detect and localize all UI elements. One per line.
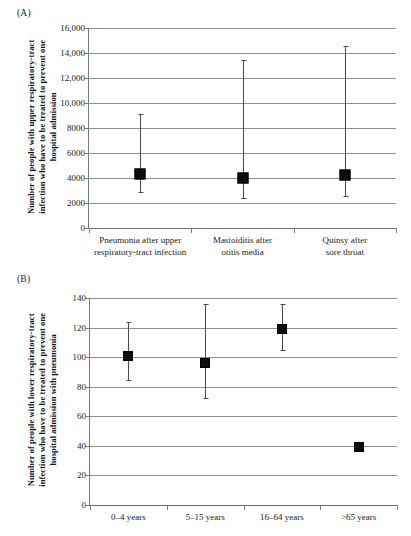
y-tick-mark [85,103,89,104]
y-tick-label: 100 [73,352,87,362]
y-tick-mark [85,203,89,204]
panel-a-y-axis-title-line-3: hospital admission [49,40,60,214]
x-category-label: 0–4 years [111,512,146,524]
y-tick-label: 40 [77,441,86,451]
y-tick-label: 0 [81,223,86,233]
y-tick-mark [85,128,89,129]
y-tick-label: 10,000 [60,98,85,108]
gridline [90,387,397,388]
x-category-label: 5–15 years [186,512,225,524]
error-bar-cap-lower [280,350,285,351]
error-bar-cap-upper [127,322,132,323]
y-tick-mark [85,153,89,154]
y-tick-mark [86,328,90,329]
y-tick-label: 80 [77,382,86,392]
x-tick-mark [320,505,321,510]
data-point-marker [200,358,210,368]
y-tick-label: 120 [73,323,87,333]
data-point-marker [237,173,248,184]
y-tick-label: 12,000 [60,73,85,83]
x-category-label-line: Quinsy after [322,235,367,247]
x-category-label: Quinsy aftersore throat [322,235,367,258]
x-category-label-line: >65 years [341,512,376,524]
y-tick-label: 6000 [67,148,85,158]
y-tick-mark [86,446,90,447]
gridline [90,475,397,476]
x-tick-mark [294,228,295,233]
y-tick-mark [85,28,89,29]
y-tick-label: 2000 [67,198,85,208]
x-category-label-line: 16–64 years [260,512,304,524]
error-bar-cap-upper [241,60,246,61]
x-category-label-line: respiratory-tract infection [94,247,186,259]
error-bar-cap-lower [241,198,246,199]
gridline [89,53,396,54]
x-tick-mark [244,505,245,510]
panel-b-y-axis-title: Number of people with lower respiratory-… [22,300,64,500]
x-tick-mark [396,228,397,233]
x-category-label-line: otitis media [213,247,272,259]
y-tick-mark [85,78,89,79]
panel-a-y-axis-title-line-1: Number of people with upper respiratory-… [26,40,37,214]
y-tick-label: 140 [73,293,87,303]
data-point-marker [135,168,146,179]
error-bar [140,114,141,193]
panel-b: (B) Number of people with lower respirat… [0,268,411,536]
y-tick-label: 60 [77,411,86,421]
y-tick-label: 4000 [67,173,85,183]
x-category-label: Mastoiditis afterotitis media [213,235,272,258]
x-category-label-line: 0–4 years [111,512,146,524]
panel-b-plot-area: 0204060801001201400–4 years5–15 years16–… [89,298,397,505]
gridline [90,357,397,358]
error-bar-cap-lower [139,192,144,193]
data-point-marker [339,169,350,180]
error-bar-cap-upper [280,304,285,305]
y-tick-mark [86,475,90,476]
x-tick-mark [89,228,90,233]
x-category-label: Pneumonia after upperrespiratory-tract i… [94,235,186,258]
x-tick-mark [90,505,91,510]
panel-a-y-axis-title: Number of people with upper respiratory-… [22,18,64,236]
error-bar-cap-upper [204,304,209,305]
error-bar-cap-lower [127,380,132,381]
data-point-marker [277,324,287,334]
y-tick-label: 0 [82,500,87,510]
x-category-label-line: 5–15 years [186,512,225,524]
gridline [90,416,397,417]
panel-b-y-axis-title-line-1: Number of people with lower respiratory-… [26,313,37,487]
x-category-label: >65 years [341,512,376,524]
y-tick-mark [85,53,89,54]
panel-b-label: (B) [17,274,30,284]
y-tick-label: 14,000 [60,48,85,58]
gridline [89,28,396,29]
y-tick-mark [86,387,90,388]
error-bar-cap-lower [343,196,348,197]
x-tick-mark [191,228,192,233]
error-bar [205,304,206,399]
y-tick-mark [86,416,90,417]
gridline [89,203,396,204]
gridline [90,298,397,299]
y-tick-label: 8000 [67,123,85,133]
error-bar-cap-upper [343,46,348,47]
y-tick-label: 16,000 [60,23,85,33]
panel-a-y-axis-title-line-2: infection who have to be treated to prev… [37,40,48,214]
gridline [90,328,397,329]
panel-b-y-axis-title-line-2: infection who have to be treated to prev… [37,313,48,487]
error-bar-cap-upper [139,114,144,115]
x-axis-line [89,228,396,229]
y-tick-label: 20 [77,470,86,480]
y-tick-mark [85,178,89,179]
panel-a: (A) Number of people with upper respirat… [0,0,411,268]
x-tick-mark [397,505,398,510]
y-tick-mark [86,298,90,299]
x-tick-mark [167,505,168,510]
error-bar-cap-lower [204,398,209,399]
x-category-label-line: Mastoiditis after [213,235,272,247]
panel-b-y-axis-title-line-3: hospital admission with pneumonia [49,313,60,487]
panel-a-plot-area: 0200040006000800010,00012,00014,00016,00… [88,28,396,228]
y-tick-mark [86,357,90,358]
x-category-label-line: Pneumonia after upper [94,235,186,247]
panel-a-label: (A) [17,8,31,18]
gridline [90,446,397,447]
